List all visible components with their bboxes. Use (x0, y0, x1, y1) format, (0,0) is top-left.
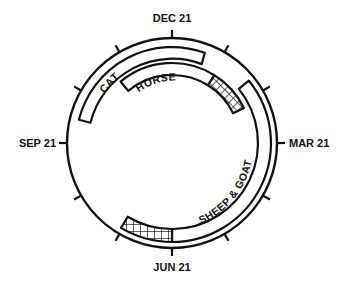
label-dec-21: DEC 21 (153, 12, 192, 24)
label-jun-21: JUN 21 (153, 261, 190, 273)
sheep-goat-band (172, 81, 271, 242)
breeding-season-diagram: CAT HORSE SHEEP & GOAT DEC 21 MAR 21 JUN… (0, 0, 341, 281)
label-mar-21: MAR 21 (289, 137, 329, 149)
horse-hatched-segment (208, 75, 244, 113)
label-sep-21: SEP 21 (19, 137, 56, 149)
